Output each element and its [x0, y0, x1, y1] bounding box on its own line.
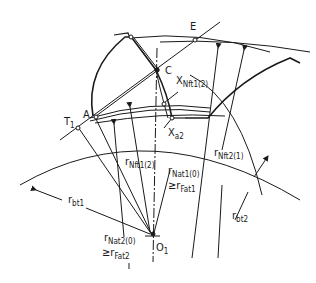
point-x-a2-label: Xa2 [168, 126, 184, 141]
radius-rnat1-label: rNat1(0) [168, 164, 200, 179]
radius-rnat2-label: rNat2(0) [104, 231, 136, 246]
point-o1-label: O1 [156, 241, 168, 256]
point-a-label: A [83, 108, 90, 121]
radius-rbt1-label: rbt1 [68, 193, 84, 208]
tip-circle-arc-upper2 [160, 41, 310, 52]
point-t1-label: T1 [63, 115, 75, 130]
base-circle-1 [20, 151, 300, 200]
base-circle-2 [190, 75, 262, 195]
radius-rfat2-label: ≥rFat2 [102, 246, 130, 261]
radius-rbt2-label: rbt2 [232, 209, 248, 224]
radius-rfat1-label: ≥rFat1 [168, 179, 196, 194]
radius-rnft2-label: rNft2(1) [214, 146, 244, 161]
gear-geometry-diagram: E C A T1 O1 XNft1(2) Xa2 rbt1 rbt2 rNft1… [0, 0, 316, 283]
point-c-label: C [165, 64, 172, 77]
radius-rnft1-label: rNft1(2) [125, 155, 155, 170]
point-e-label: E [190, 20, 196, 33]
arc-nat2 [95, 115, 225, 123]
